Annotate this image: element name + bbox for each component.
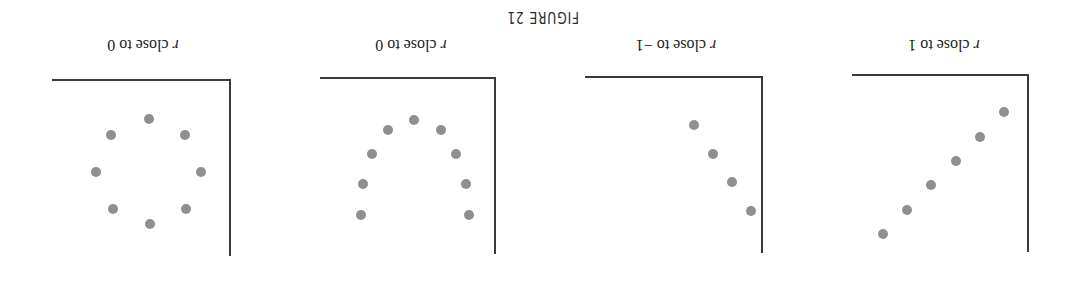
data-point [436, 125, 446, 135]
data-point [975, 132, 985, 142]
axes [852, 75, 1028, 252]
scatter-panel-r-close-to-0-parabola [320, 78, 495, 254]
data-point [689, 120, 699, 130]
data-point [902, 205, 912, 215]
scatter-plots [0, 0, 1069, 292]
figure-page: FIGURE 21 r close to 1 r close to −1 r c… [0, 0, 1069, 292]
data-point [461, 179, 471, 189]
data-point [708, 149, 718, 159]
data-point [181, 204, 191, 214]
data-point [145, 219, 155, 229]
data-point [926, 180, 936, 190]
axes [585, 77, 762, 253]
scatter-panel-r-close-to-1 [852, 75, 1028, 252]
scatter-panel-r-close-to-0-circle [52, 80, 230, 256]
data-point [356, 210, 366, 220]
data-point [367, 149, 377, 159]
data-point [409, 115, 419, 125]
data-point [464, 210, 474, 220]
data-point [144, 114, 154, 124]
data-point [383, 125, 393, 135]
data-point [878, 229, 888, 239]
data-point [358, 179, 368, 189]
data-point [727, 177, 737, 187]
data-point [951, 156, 961, 166]
data-point [746, 206, 756, 216]
data-point [999, 107, 1009, 117]
data-point [451, 149, 461, 159]
axes [320, 78, 495, 254]
data-point [108, 204, 118, 214]
data-point [91, 167, 101, 177]
scatter-panel-r-close-to-minus-1 [585, 77, 762, 253]
data-point [196, 167, 206, 177]
data-point [106, 130, 116, 140]
data-point [180, 130, 190, 140]
